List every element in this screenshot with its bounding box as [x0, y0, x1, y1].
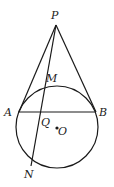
label-q: Q: [41, 116, 50, 129]
tangent-pa: [19, 25, 56, 112]
secant-pn: [31, 25, 56, 166]
label-m: M: [45, 72, 58, 85]
label-o: O: [58, 125, 67, 138]
geometry-diagram: P M A B Q O N: [0, 0, 114, 187]
diagram-canvas: P M A B Q O N: [0, 0, 114, 187]
tangent-pb: [56, 25, 96, 112]
label-n: N: [23, 168, 34, 181]
label-b: B: [98, 106, 107, 119]
label-p: P: [50, 9, 59, 22]
label-a: A: [3, 106, 12, 119]
